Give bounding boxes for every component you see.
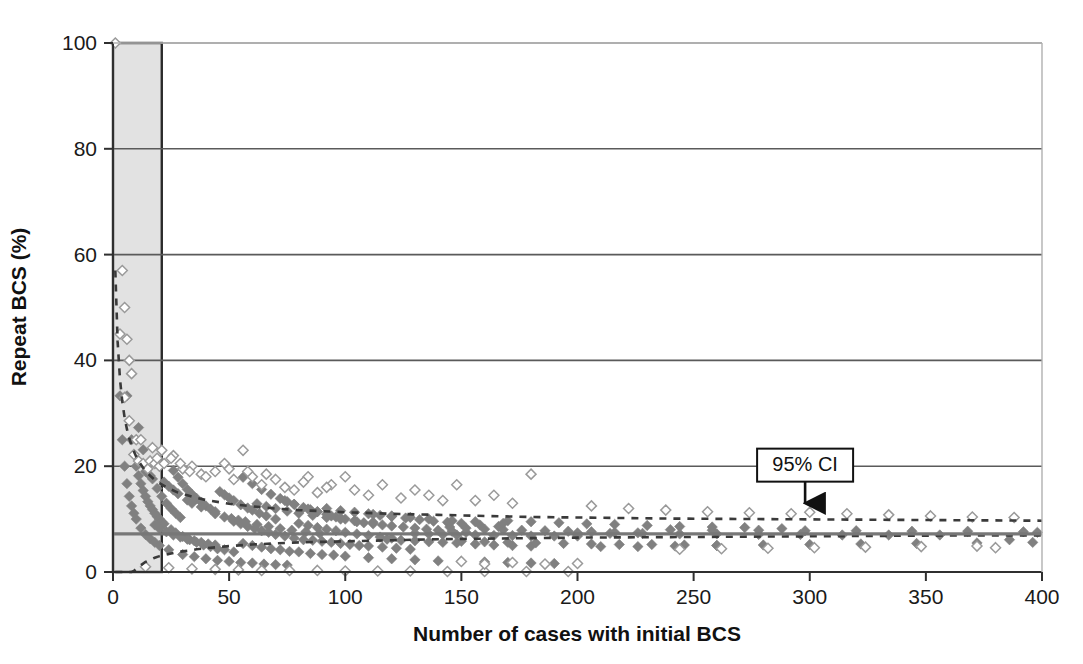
- x-tick-label: 250: [676, 585, 711, 608]
- x-tick-label: 100: [328, 585, 363, 608]
- x-axis-title: Number of cases with initial BCS: [413, 622, 741, 645]
- x-tick-label: 150: [444, 585, 479, 608]
- ci-annotation-label: 95% CI: [772, 453, 838, 475]
- chart-canvas: 050100150200250300350400 020406080100 95…: [0, 0, 1083, 664]
- x-axis-tick-labels: 050100150200250300350400: [107, 585, 1059, 608]
- y-tick-label: 80: [74, 137, 97, 160]
- x-tick-label: 200: [560, 585, 595, 608]
- y-tick-label: 0: [85, 560, 97, 583]
- y-axis-title: Repeat BCS (%): [7, 228, 30, 387]
- y-tick-label: 20: [74, 454, 97, 477]
- y-axis-tick-labels: 020406080100: [62, 31, 97, 583]
- x-tick-label: 0: [107, 585, 119, 608]
- funnel-plot-figure: 050100150200250300350400 020406080100 95…: [0, 0, 1083, 664]
- y-tick-label: 100: [62, 31, 97, 54]
- y-axis-ticks: [104, 43, 113, 572]
- x-tick-label: 350: [908, 585, 943, 608]
- x-tick-label: 300: [792, 585, 827, 608]
- x-tick-label: 50: [217, 585, 240, 608]
- plot-area-background: [113, 43, 1042, 572]
- y-tick-label: 60: [74, 243, 97, 266]
- x-tick-label: 400: [1024, 585, 1059, 608]
- x-axis-ticks: [113, 572, 1042, 581]
- y-tick-label: 40: [74, 348, 97, 371]
